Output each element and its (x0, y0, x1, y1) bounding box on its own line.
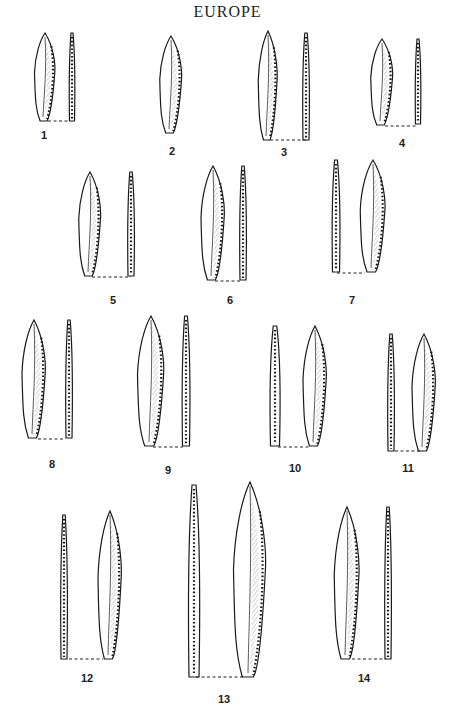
artifact-number-label: 10 (289, 462, 301, 474)
artifact-number-label: 14 (358, 672, 370, 684)
artifact-number-label: 12 (81, 672, 93, 684)
artifact-7 (332, 160, 385, 273)
artifact-number-label: 7 (349, 294, 355, 306)
artifact-8 (22, 320, 72, 439)
artifact-number-label: 13 (218, 693, 230, 705)
artifact-4 (371, 39, 421, 126)
artifact-number-label: 2 (169, 145, 175, 157)
artifact-number-label: 1 (41, 129, 47, 141)
artifact-number-label: 5 (110, 294, 116, 306)
artifact-9 (138, 316, 190, 447)
artifact-3 (258, 31, 309, 140)
artifact-6 (201, 166, 246, 281)
flint-profile-view (240, 166, 247, 280)
artifact-number-label: 3 (281, 146, 287, 158)
artifact-number-label: 6 (227, 294, 233, 306)
artifact-number-label: 4 (399, 137, 405, 149)
flint-profile-view (270, 326, 280, 446)
artifact-number-label: 9 (165, 464, 171, 476)
flint-profile-view (385, 507, 392, 659)
artifact-plate: EUROPE 1234567891011121314 (0, 0, 455, 714)
artifact-14 (334, 507, 391, 659)
artifact-5 (79, 172, 135, 277)
flint-illustrations (0, 0, 455, 714)
artifact-number-label: 11 (402, 462, 414, 474)
flint-profile-view (69, 33, 75, 121)
artifact-2 (160, 36, 182, 133)
artifact-11 (388, 334, 436, 451)
artifact-10 (270, 326, 326, 447)
artifact-number-label: 8 (49, 458, 55, 470)
artifact-13 (189, 482, 266, 677)
artifact-1 (35, 33, 75, 121)
artifact-12 (61, 511, 122, 659)
